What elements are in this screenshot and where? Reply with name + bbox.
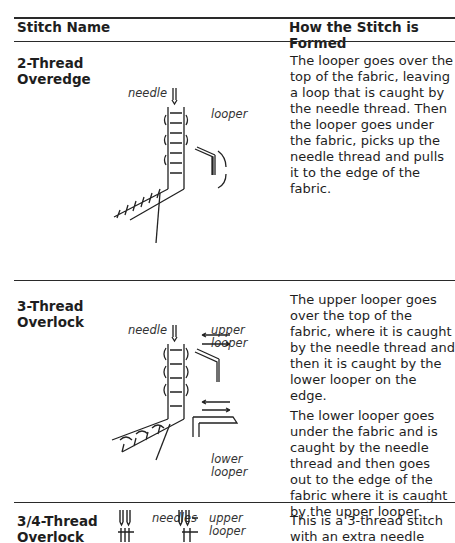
stitch-name: 3/4-Thread Overlock — [17, 513, 98, 543]
description-paragraph: The looper goes over the top of the fabr… — [290, 53, 455, 197]
row-rule — [14, 280, 455, 281]
lower-looper-icon — [193, 417, 237, 437]
stitch-name: 2-Thread Overedge — [17, 55, 91, 87]
overedge-stitch-illustration — [100, 85, 250, 215]
description-paragraph: This is a 3-thread stitch with an extra … — [290, 513, 455, 543]
description-paragraph: The lower looper goes under the fabric a… — [290, 408, 455, 520]
header-rule — [14, 41, 455, 42]
stitch-name-line2: Overlock — [17, 529, 98, 543]
double-arrow-icon — [202, 333, 230, 346]
lower-looper-label-line2: looper — [211, 466, 247, 479]
upper-looper-icon — [195, 349, 219, 382]
upper-looper-label-line2: looper — [209, 525, 245, 538]
double-arrow-icon — [202, 400, 230, 412]
stitch-name-line1: 3/4-Thread — [17, 513, 98, 529]
stitch-name-line1: 3-Thread — [17, 298, 84, 314]
stitch-name-line2: Overlock — [17, 314, 84, 330]
needles-icon — [117, 510, 135, 543]
looper-icon — [195, 147, 215, 175]
row-rule — [14, 502, 455, 503]
header-stitch-name: Stitch Name — [17, 19, 110, 35]
upper-looper-icon — [176, 510, 206, 543]
stitch-description: The looper goes over the top of the fabr… — [290, 53, 455, 201]
header-how-formed: How the Stitch is Formed — [289, 19, 455, 51]
stitch-name: 3-Thread Overlock — [17, 298, 84, 330]
overlock-stitch-illustration — [100, 322, 250, 462]
needle-icon — [172, 88, 177, 104]
stitch-name-line1: 2-Thread — [17, 55, 91, 71]
stitch-description: This is a 3-thread stitch with an extra … — [290, 513, 455, 543]
upper-looper-label: upper looper — [209, 512, 245, 538]
needle-icon — [172, 325, 177, 341]
description-paragraph: The upper looper goes over the top of th… — [290, 292, 455, 404]
stitch-description: The upper looper goes over the top of th… — [290, 292, 455, 524]
stitch-name-line2: Overedge — [17, 71, 91, 87]
